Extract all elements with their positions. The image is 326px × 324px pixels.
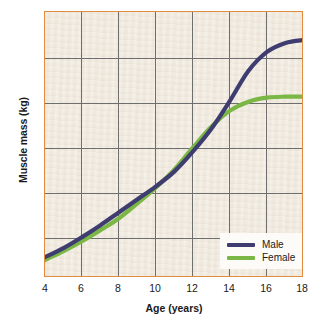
legend-item-male: Male <box>227 238 296 251</box>
male-curve <box>45 40 303 257</box>
y-axis-title: Muscle mass (kg) <box>17 55 29 225</box>
male-color-swatch <box>227 243 255 247</box>
x-tick-12: 12 <box>177 282 207 294</box>
x-tick-14: 14 <box>214 282 244 294</box>
x-tick-10: 10 <box>140 282 170 294</box>
muscle-mass-chart-figure: Muscle mass (kg) Male Female <box>0 0 326 324</box>
plot-area: Male Female <box>44 11 303 277</box>
x-tick-4: 4 <box>30 282 60 294</box>
x-tick-6: 6 <box>66 282 96 294</box>
legend-label-male: Male <box>262 239 284 250</box>
chart-legend: Male Female <box>220 233 302 269</box>
female-color-swatch <box>227 256 255 260</box>
legend-item-female: Female <box>227 251 296 264</box>
x-axis-title: Age (years) <box>44 302 304 314</box>
x-tick-8: 8 <box>103 282 133 294</box>
legend-label-female: Female <box>262 252 295 263</box>
x-tick-18: 18 <box>287 282 317 294</box>
x-tick-16: 16 <box>251 282 281 294</box>
